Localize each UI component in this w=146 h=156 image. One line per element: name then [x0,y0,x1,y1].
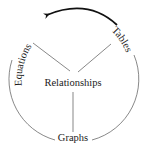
circle-arc-right [92,55,139,140]
representations-diagram: Equations Tables Relationships Graphs [0,0,146,156]
label-relationships: Relationships [44,77,101,88]
spoke-tables [78,44,111,72]
label-graphs: Graphs [58,132,88,143]
label-tables: Tables [110,24,135,54]
diagram-canvas: Equations Tables Relationships Graphs [0,0,146,156]
spoke-equations [33,43,70,71]
arrow-tables-to-equations [47,8,117,25]
label-equations: Equations [13,41,34,86]
